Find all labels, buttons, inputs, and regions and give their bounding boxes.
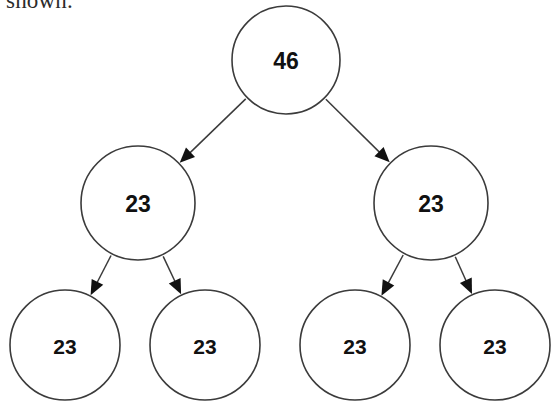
tree-node-leaf-3[interactable]: 23 — [300, 290, 410, 400]
node-label: 23 — [483, 335, 506, 358]
binary-tree-diagram: 46232323232323 — [0, 0, 555, 405]
node-label: 46 — [273, 48, 299, 74]
tree-edge — [96, 255, 111, 284]
tree-node-mid-l[interactable]: 23 — [81, 146, 195, 260]
diagram-page: shown. 46232323232323 — [0, 0, 555, 405]
node-label: 23 — [343, 335, 366, 358]
node-label: 23 — [418, 191, 444, 217]
tree-node-leaf-2[interactable]: 23 — [150, 290, 260, 400]
tree-node-leaf-1[interactable]: 23 — [10, 290, 120, 400]
tree-edge — [387, 255, 403, 285]
tree-node-mid-r[interactable]: 23 — [374, 146, 488, 260]
tree-edge — [455, 257, 467, 283]
tree-edge — [163, 256, 176, 283]
node-label: 23 — [53, 335, 76, 358]
tree-node-leaf-4[interactable]: 23 — [440, 290, 550, 400]
tree-node-root[interactable]: 46 — [232, 6, 340, 114]
tree-nodes: 46232323232323 — [10, 6, 550, 400]
tree-edge — [326, 99, 381, 154]
node-label: 23 — [125, 191, 151, 217]
node-label: 23 — [193, 335, 216, 358]
tree-edge-arrowhead — [381, 279, 394, 295]
tree-edge — [188, 99, 245, 154]
